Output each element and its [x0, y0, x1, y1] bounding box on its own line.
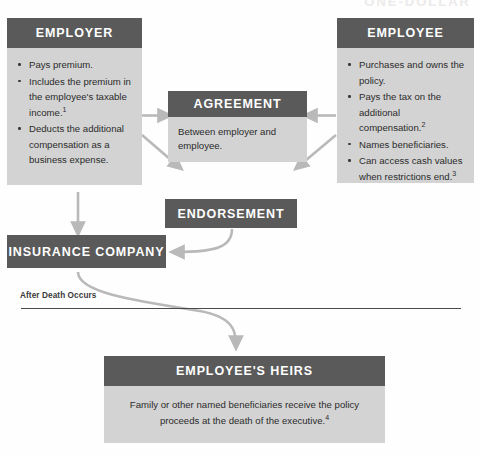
list-item: Pays the tax on the additional compensat…	[359, 89, 466, 136]
employer-box-title: EMPLOYER	[7, 18, 142, 48]
heirs-box-body: Family or other named beneficiaries rece…	[104, 386, 385, 443]
bullet-text: Can access cash values when restrictions…	[359, 155, 462, 182]
arrow-endorsement-to-insurance-company	[176, 229, 232, 252]
employer-box: EMPLOYER Pays premium. Includes the prem…	[7, 18, 142, 185]
list-item: Can access cash values when restrictions…	[359, 153, 466, 184]
agreement-box-title: AGREEMENT	[168, 91, 307, 117]
bullet-text: Deducts the additional compensation as a…	[29, 123, 124, 165]
employer-box-body: Pays premium. Includes the premium in th…	[7, 48, 142, 185]
bullet-text: Names beneficiaries.	[359, 139, 449, 150]
bullet-text: Purchases and owns the policy.	[359, 59, 464, 86]
bullet-text: Includes the premium in the employee's t…	[29, 76, 131, 118]
employee-box-body: Purchases and owns the policy. Pays the …	[337, 48, 474, 183]
footnote-marker: 2	[421, 121, 425, 128]
agreement-box: AGREEMENT Between employer and employee.	[168, 91, 307, 162]
list-item: Names beneficiaries.	[359, 137, 466, 153]
footnote-marker: 4	[325, 413, 329, 420]
list-item: Purchases and owns the policy.	[359, 57, 466, 88]
insurance-company-box: INSURANCE COMPANY	[7, 235, 166, 268]
bullet-text: Pays premium.	[29, 59, 93, 70]
heirs-box: EMPLOYEE'S HEIRS Family or other named b…	[104, 356, 385, 443]
endorsement-box: ENDORSEMENT	[165, 199, 297, 228]
footnote-marker: 1	[63, 105, 67, 112]
list-item: Includes the premium in the employee's t…	[29, 74, 134, 121]
after-death-label: After Death Occurs	[20, 291, 96, 300]
employer-bullet-list: Pays premium. Includes the premium in th…	[7, 48, 142, 177]
footnote-marker: 3	[452, 170, 456, 177]
diagram-canvas: ONE-DOLLAR EMPLOYER Pays premium.	[0, 0, 481, 455]
bullet-text: Pays the tax on the additional compensat…	[359, 91, 441, 133]
heirs-box-title: EMPLOYEE'S HEIRS	[104, 356, 385, 386]
insurance-company-box-title: INSURANCE COMPANY	[7, 235, 166, 268]
list-item: Pays premium.	[29, 57, 134, 73]
list-item: Deducts the additional compensation as a…	[29, 121, 134, 168]
employee-box-title: EMPLOYEE	[337, 18, 474, 48]
agreement-box-body: Between employer and employee.	[168, 117, 307, 162]
employee-bullet-list: Purchases and owns the policy. Pays the …	[337, 48, 474, 193]
employee-box: EMPLOYEE Purchases and owns the policy. …	[337, 18, 474, 183]
endorsement-box-title: ENDORSEMENT	[165, 199, 297, 228]
after-death-divider	[21, 308, 461, 309]
